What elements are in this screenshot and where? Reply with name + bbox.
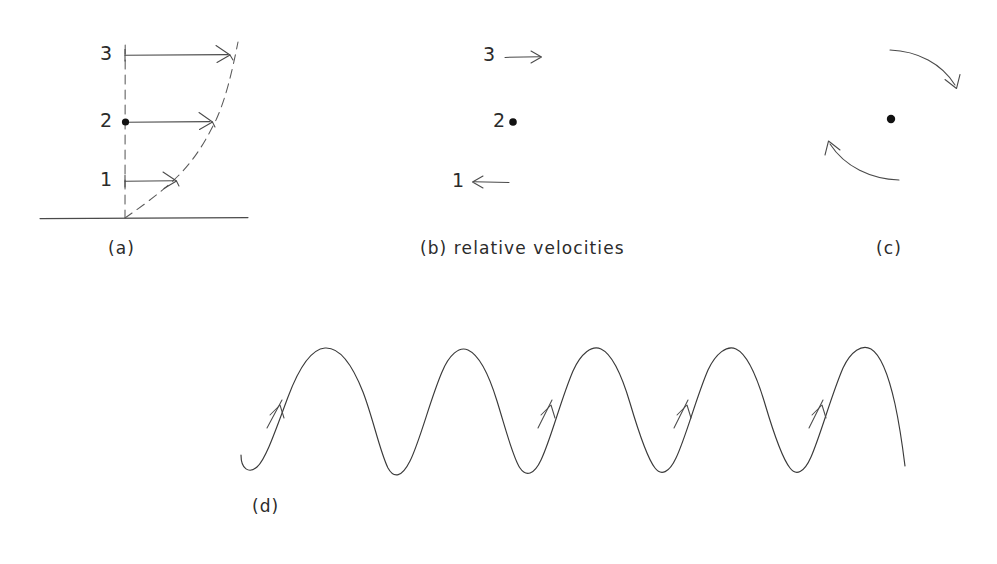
panel-a-arrow-level-1 [125,172,179,189]
panel-c-caption: (c) [876,240,902,257]
figure-drawing [0,0,997,564]
panel-a-level-label-2: 2 [100,111,113,130]
panel-a-level-label-1: 1 [100,170,113,189]
panel-a-arrow-level-3 [125,46,233,63]
panel-a-level-label-3: 3 [100,44,113,63]
panel-d-trochoidal-wave [241,347,905,474]
panel-a-velocity-profile-curve [125,42,238,218]
panel-a-caption: (a) [108,240,135,257]
panel-c-group [825,50,960,180]
panel-a-baseline [40,218,248,219]
panel-c-centre-dot [887,115,895,123]
panel-d-motion-arrow-2 [538,400,555,428]
panel-b-level-label-2: 2 [493,111,506,130]
panel-d-caption: (d) [252,498,279,515]
panel-b-arrow-right-level-3 [505,51,542,63]
panel-a-node-dot-level-2 [122,118,129,125]
figure-canvas: 3 2 1 (a) 3 2 1 (b) relative velocities … [0,0,997,564]
panel-b-level-label-1: 1 [452,171,465,190]
panel-b-arrow-left-level-1 [473,176,510,188]
panel-b-caption: (b) relative velocities [420,240,625,257]
panel-b-node-dot-level-2 [509,118,517,126]
panel-b-level-label-3: 3 [483,45,496,64]
panel-c-upper-rotation-arrow [890,50,960,89]
panel-c-lower-rotation-arrow [825,141,899,180]
panel-b-group [473,51,542,188]
panel-a-arrow-level-2 [122,113,215,130]
panel-d-group [241,347,905,474]
panel-a-group [40,42,248,219]
